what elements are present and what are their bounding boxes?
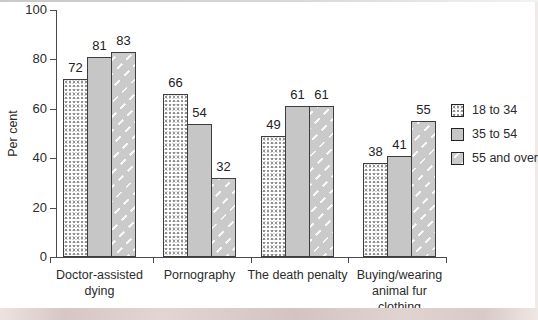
bar-value-label: 66 [156, 76, 196, 90]
category-label-line: animal fur [330, 283, 470, 299]
bar-stipple [261, 136, 286, 257]
x-tick [446, 257, 447, 263]
bar-value-label: 32 [204, 160, 244, 174]
category-label-line: Buying/wearing [330, 267, 470, 283]
y-tick-label: 80 [11, 52, 47, 66]
x-tick [153, 257, 154, 263]
legend-label: 35 to 54 [472, 127, 517, 141]
x-axis-line [50, 257, 447, 258]
bar-solid [387, 156, 412, 257]
legend-swatch-stipple [451, 104, 464, 117]
bar-value-label: 83 [104, 34, 144, 48]
bar-value-label: 54 [180, 106, 220, 120]
bar-hatch [411, 121, 436, 257]
y-tick [50, 158, 56, 159]
bar-solid [87, 57, 112, 257]
legend-swatch-hatch [451, 152, 464, 165]
page-bottom-band [0, 308, 538, 320]
y-tick [50, 59, 56, 60]
y-tick-label: 100 [11, 3, 47, 17]
y-tick [50, 208, 56, 209]
bar-chart: Per cent 020406080100 728183665432496161… [0, 0, 538, 308]
bar-stipple [363, 163, 388, 257]
bar-value-label: 55 [404, 103, 444, 117]
y-tick [50, 10, 56, 11]
legend-label: 55 and over [472, 151, 538, 165]
bar-stipple [63, 79, 88, 257]
y-tick-label: 20 [11, 201, 47, 215]
legend-item-55-over: 55 and over [451, 151, 538, 165]
legend-swatch-solid [451, 128, 464, 141]
y-tick-label: 0 [11, 250, 47, 264]
y-axis-line [56, 10, 57, 258]
legend: 18 to 34 35 to 54 55 and over [451, 103, 538, 175]
bar-hatch [211, 178, 236, 257]
y-tick [50, 109, 56, 110]
y-tick-label: 60 [11, 102, 47, 116]
legend-item-18-34: 18 to 34 [451, 103, 538, 117]
x-tick [251, 257, 252, 263]
x-tick [50, 257, 51, 263]
screenshot-root: Per cent 020406080100 728183665432496161… [0, 0, 538, 320]
x-tick [348, 257, 349, 263]
legend-label: 18 to 34 [472, 103, 517, 117]
category-label-line: dying [30, 283, 170, 299]
legend-item-35-54: 35 to 54 [451, 127, 538, 141]
bar-solid [285, 106, 310, 257]
bar-solid [187, 124, 212, 257]
bar-value-label: 61 [302, 88, 342, 102]
bar-hatch [309, 106, 334, 257]
y-tick-label: 40 [11, 151, 47, 165]
bar-hatch [111, 52, 136, 257]
